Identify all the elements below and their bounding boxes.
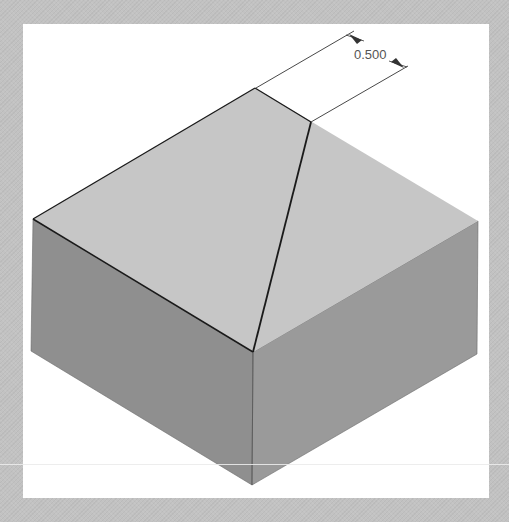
dimension-arrow-1-icon: [346, 34, 364, 44]
extension-line-2: [311, 66, 408, 122]
dimension-arrow-2-icon: [389, 58, 407, 68]
extension-line-1: [256, 31, 354, 88]
dimension-label[interactable]: 0.500: [354, 47, 387, 62]
stray-line: [0, 464, 509, 465]
model-view[interactable]: 0.500: [0, 0, 509, 522]
